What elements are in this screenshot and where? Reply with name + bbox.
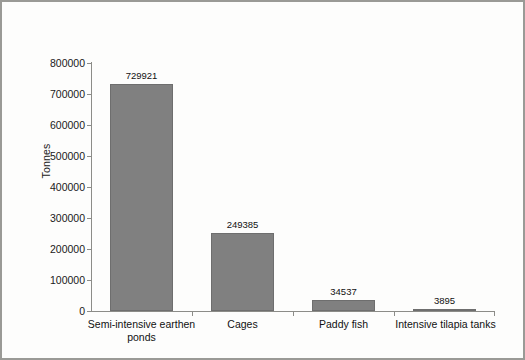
bar-value-label: 3895 bbox=[407, 295, 482, 306]
x-tick-mark bbox=[293, 312, 294, 316]
x-tick-mark bbox=[494, 312, 495, 316]
bar-intensive-tilapia-tanks bbox=[413, 309, 476, 311]
y-tick-label: 300000 bbox=[25, 213, 85, 223]
bar-semi-intensive-earthen-ponds bbox=[110, 84, 173, 311]
bar-value-label: 34537 bbox=[306, 286, 381, 297]
y-tick-label: 600000 bbox=[25, 120, 85, 130]
bar-paddy-fish bbox=[312, 300, 375, 311]
y-tick-label: 100000 bbox=[25, 275, 85, 285]
bar-value-label: 729921 bbox=[104, 70, 179, 81]
x-category-label-line: Paddy fish bbox=[293, 318, 394, 331]
bar-value-label: 249385 bbox=[205, 219, 280, 230]
y-tick-label: 700000 bbox=[25, 89, 85, 99]
y-tick-label: 800000 bbox=[25, 58, 85, 68]
x-tick-mark bbox=[192, 312, 193, 316]
x-tick-mark bbox=[394, 312, 395, 316]
y-tick-label: 200000 bbox=[25, 244, 85, 254]
y-axis-tick-labels: 0 100000 200000 300000 400000 500000 600… bbox=[27, 0, 85, 360]
x-category-label: Semi-intensive earthen ponds bbox=[76, 318, 207, 344]
chart-page: Tonnes 0 100000 200000 300000 400000 500… bbox=[0, 0, 525, 360]
y-tick-label: 0 bbox=[25, 306, 85, 316]
x-category-label-line: Semi-intensive earthen bbox=[76, 318, 207, 331]
x-category-label-line: Cages bbox=[192, 318, 293, 331]
y-tick-label: 400000 bbox=[25, 182, 85, 192]
x-category-label-line: ponds bbox=[76, 331, 207, 344]
bar-chart: Tonnes 0 100000 200000 300000 400000 500… bbox=[0, 0, 525, 360]
x-category-label-line: Intensive tilapia tanks bbox=[388, 318, 503, 331]
bar-cages bbox=[211, 233, 274, 311]
y-tick-label: 500000 bbox=[25, 151, 85, 161]
y-axis-line bbox=[91, 62, 92, 312]
x-category-label: Cages bbox=[192, 318, 293, 331]
x-category-label: Paddy fish bbox=[293, 318, 394, 331]
x-category-label: Intensive tilapia tanks bbox=[388, 318, 503, 331]
